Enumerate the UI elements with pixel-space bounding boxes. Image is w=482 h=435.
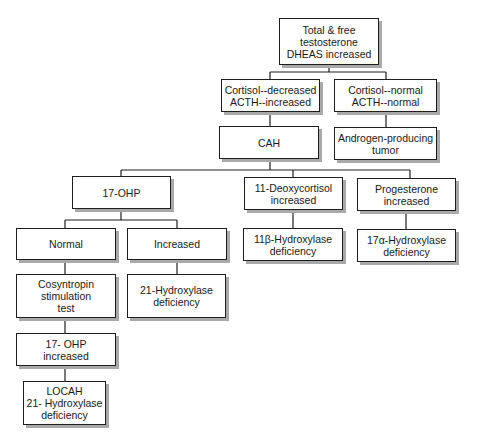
- node-cah: CAH: [219, 126, 319, 159]
- node-17-ohp: 17-OHP: [72, 176, 171, 209]
- node-progesterone-increased: Progesterone increased: [357, 178, 456, 211]
- node-17a-hydroxylase-deficiency: 17α-Hydroxylase deficiency: [357, 229, 456, 262]
- node-17-ohp-increased: 17- OHP increased: [16, 333, 116, 366]
- node-increased: Increased: [127, 228, 227, 260]
- node-cortisol-decreased-acth-increased: Cortisol--decreased ACTH--increased: [221, 79, 320, 112]
- node-21-hydroxylase-deficiency: 21-Hydroxylase deficiency: [127, 274, 226, 318]
- node-locah-21-hydroxylase-deficiency: LOCAH 21- Hydroxylase deficiency: [23, 381, 106, 425]
- node-11-deoxycortisol-increased: 11-Deoxycortisol increased: [244, 177, 343, 210]
- node-normal: Normal: [16, 228, 116, 260]
- node-cortisol-normal-acth-normal: Cortisol--normal ACTH--normal: [334, 79, 437, 112]
- node-total-free-testosterone-dheas-increased: Total & free testosterone DHEAS increase…: [279, 18, 379, 65]
- connector-lines: [0, 0, 482, 435]
- node-cosyntropin-stimulation-test: Cosyntropin stimulation test: [16, 274, 116, 318]
- node-androgen-producing-tumor: Androgen-producing tumor: [334, 127, 437, 160]
- node-11b-hydroxylase-deficiency: 11β-Hydroxylase deficiency: [243, 228, 343, 261]
